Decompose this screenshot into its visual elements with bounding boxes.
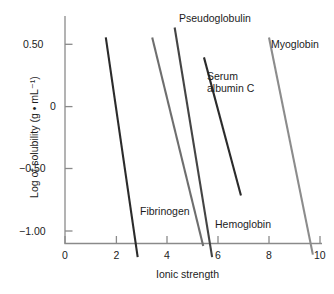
series-label-myoglobin: Myoglobin <box>271 38 319 50</box>
series-label-serum-albumin-c: Serum albumin C <box>207 70 254 95</box>
series-line-fibrinogen <box>106 37 138 257</box>
serum-albumin-line-2: albumin C <box>207 82 254 94</box>
y-axis-title-wrapper: Log of solubility (g • mL⁻¹) <box>24 52 42 222</box>
series-label-hemoglobin: Hemoglobin <box>215 218 271 230</box>
y-tick-label-0: 0 <box>50 101 56 112</box>
y-tick-label-neg100: −1.00 <box>19 226 46 237</box>
series-line-myoglobin <box>269 37 313 254</box>
serum-albumin-line-1: Serum <box>207 70 254 82</box>
series-label-pseudoglobulin: Pseudoglobulin <box>179 12 251 24</box>
x-tick-label-6: 6 <box>215 250 221 261</box>
x-axis-title: Ionic strength <box>156 269 219 280</box>
x-tick-label-4: 4 <box>164 250 170 261</box>
series-label-fibrinogen: Fibrinogen <box>140 205 190 217</box>
series-line-pseudoglobulin <box>175 28 212 258</box>
x-tick-label-2: 2 <box>114 250 120 261</box>
figure-container: 0.50 0 −0.50 −1.00 0 2 4 6 8 10 Ionic st… <box>0 0 334 294</box>
x-tick-label-8: 8 <box>266 250 272 261</box>
x-tick-label-0: 0 <box>62 250 68 261</box>
x-tick-label-10: 10 <box>314 250 326 261</box>
y-axis-title: Log of solubility (g • mL⁻¹) <box>28 76 40 198</box>
y-tick-label-050: 0.50 <box>23 39 43 50</box>
